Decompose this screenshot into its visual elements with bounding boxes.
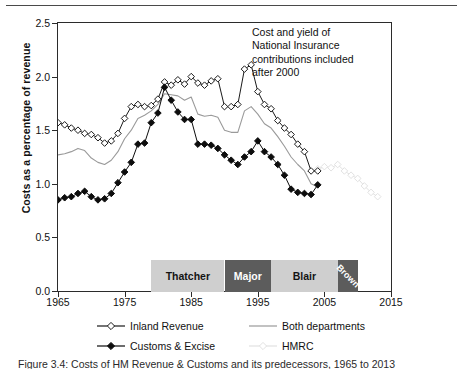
legend-item-customs-excise[interactable]: Customs & Excise (96, 340, 248, 352)
pm-segment-thatcher: Thatcher (151, 260, 224, 292)
x-tick-label: 1995 (237, 296, 279, 308)
legend-label: HMRC (282, 340, 314, 352)
legend-row: Inland RevenueBoth departments (96, 316, 396, 336)
x-tick-label: 2005 (303, 296, 345, 308)
legend-label: Inland Revenue (130, 320, 204, 332)
pm-segment-major: Major (225, 260, 272, 292)
y-tick-label: 1.0 (20, 178, 50, 190)
figure-caption: Figure 3.4: Costs of HM Revenue & Custom… (18, 358, 448, 369)
legend-marker-icon (248, 320, 278, 332)
pm-segment-brown: Brown (338, 260, 358, 292)
y-tick-label: 2.5 (20, 17, 50, 29)
y-tick-label: 2.0 (20, 71, 50, 83)
figure-container: Costs as a percentage of revenue 0.00.51… (0, 0, 463, 369)
legend-row: Customs & ExciseHMRC (96, 336, 396, 356)
annotation-line: contributions included (252, 53, 384, 66)
legend-marker-icon (96, 340, 126, 352)
chart-annotation: Cost and yield ofNational Insurancecontr… (252, 26, 384, 80)
annotation-line: after 2000 (252, 66, 384, 79)
y-tick-label: 0.5 (20, 231, 50, 243)
pm-segment-blair: Blair (271, 260, 338, 292)
pm-segment-label: Major (234, 270, 262, 282)
legend-marker-icon (96, 320, 126, 332)
x-tick-mark (58, 292, 59, 297)
legend-item-both-departments[interactable]: Both departments (248, 320, 365, 332)
x-tick-mark (258, 292, 259, 297)
x-tick-label: 1975 (104, 296, 146, 308)
x-tick-mark (125, 292, 126, 297)
series-customs-excise (58, 84, 321, 203)
chart-legend: Inland RevenueBoth departmentsCustoms & … (96, 316, 396, 356)
x-tick-label: 2015 (370, 296, 412, 308)
legend-label: Customs & Excise (130, 340, 215, 352)
x-tick-label: 1965 (37, 296, 79, 308)
pm-segment-label: Thatcher (166, 270, 210, 282)
pm-segment-label: Blair (293, 270, 316, 282)
y-tick-label: 1.5 (20, 124, 50, 136)
x-tick-mark (391, 292, 392, 297)
legend-marker-icon (248, 340, 278, 352)
pm-segment-label: Brown (334, 263, 361, 290)
x-tick-label: 1985 (170, 296, 212, 308)
legend-item-hmrc[interactable]: HMRC (248, 340, 314, 352)
series-hmrc (314, 161, 381, 200)
annotation-line: National Insurance (252, 39, 384, 52)
annotation-line: Cost and yield of (252, 26, 384, 39)
legend-label: Both departments (282, 320, 365, 332)
x-tick-mark (324, 292, 325, 297)
x-tick-mark (191, 292, 192, 297)
legend-item-inland-revenue[interactable]: Inland Revenue (96, 320, 248, 332)
